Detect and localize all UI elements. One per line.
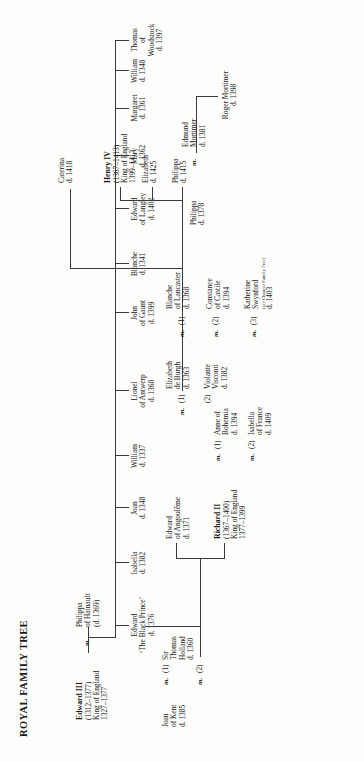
node-reign: 1327–1377	[101, 654, 109, 720]
node-edward-of-angouleme: Edward of Angoulême d. 1371	[166, 477, 191, 539]
node-blanche-1341: Blanche d. 1341	[131, 237, 148, 291]
connector-gaunt-blanche-issue	[182, 201, 183, 313]
connector-blackprince-children	[200, 559, 201, 627]
page-title: ROYAL FAMILY TREE	[18, 620, 29, 737]
node-dates: d. 1409	[265, 385, 273, 435]
node-reign: 1377–1399	[239, 469, 247, 539]
node-surname: Swynford	[252, 243, 260, 309]
node-dates: d. 1398	[230, 49, 238, 141]
node-dates: (d. 1369)	[93, 565, 101, 627]
node-caterina-1418: Caterina d. 1418	[58, 129, 75, 183]
connector-blackprince-children-spine	[176, 558, 224, 559]
node-lionel-of-antwerp: Lionel of Antwerp d. 1368	[131, 361, 156, 421]
connector-stub-joan	[115, 507, 129, 508]
node-joan-of-kent: Joan of Kent d. 1385	[162, 679, 187, 727]
node-philippa-1378: Philippa d. 1378	[190, 173, 207, 225]
node-dates: d. 1394	[223, 251, 231, 309]
node-edward-iii: Edward III (1312–1377) King of England 1…	[76, 654, 110, 720]
node-dates: d. 1382	[221, 335, 229, 389]
node-dates: d. 1337	[139, 429, 147, 483]
marriage-marker-lionel: m.	[178, 408, 186, 415]
node-dates: d. 1348	[139, 483, 147, 533]
marriage-index-2-isabella-france: (2)	[248, 441, 256, 449]
connector-gaunt-issue-spine	[120, 200, 182, 201]
node-dates: d. 1382	[139, 536, 147, 590]
marriage-marker-blanche-lancaster: m.	[178, 330, 186, 337]
connector-stub-philippa-1415	[182, 187, 183, 201]
node-dates: d. 1368	[183, 247, 191, 309]
marriage-index-1-blanche-lancaster: (1)	[178, 317, 186, 325]
connector-root-drop	[88, 637, 116, 638]
marriage-index-2-visconti: (2)	[204, 395, 212, 403]
node-dates: d. 1368	[148, 361, 156, 421]
node-philippa-1415: Philippa d. 1415	[172, 129, 189, 183]
marriage-index-3-katherine: (3)	[250, 317, 258, 325]
connector-stub-margaret	[115, 108, 129, 109]
node-william-1337: William d. 1337	[131, 429, 148, 483]
node-john-of-gaunt: John of Gaunt d. 1399	[131, 285, 156, 341]
connector-stub-edward-langley	[115, 208, 129, 209]
node-thomas-of-woodstock: Thomas of Woodstock d. 1397	[131, 15, 164, 65]
marriage-marker-mortimer: m.	[190, 159, 198, 166]
connector-root-marriage	[88, 627, 89, 653]
connector-stub-edward-bp	[115, 625, 129, 626]
connector-blackprince-drop	[145, 626, 201, 627]
family-tree-canvas: ROYAL FAMILY TREE Edward III (1312–1377)…	[0, 0, 364, 761]
connector-stub-edward-angouleme	[176, 543, 177, 559]
node-dates: d. 1394	[231, 385, 239, 435]
node-elizabeth-de-burgh: Elizabeth de Burgh d. 1363	[166, 335, 191, 389]
node-katherine-swynford: Katherine Swynford (see Chaucer Family T…	[244, 243, 274, 309]
node-anne-of-bohemia: Anne of Bohemia d. 1394	[214, 385, 239, 435]
node-elizabeth-1425: Elizabeth d. 1425	[142, 129, 159, 183]
marriage-marker-katherine: m.	[250, 330, 258, 337]
node-dates: d. 1360	[187, 610, 195, 660]
node-henry-iv: Henry IV (1367–1413) King of England 139…	[104, 111, 138, 183]
node-dates: d. 1378	[198, 173, 206, 225]
connector-caterina-arm	[70, 189, 71, 269]
node-isabella-of-france: Isabella of France d. 1409	[248, 385, 273, 435]
node-dates: d. 1363	[183, 335, 191, 389]
marriage-index-1-de-burgh: (1)	[178, 395, 186, 403]
connector-mortimer-drop	[196, 96, 218, 97]
connector-stub-william1337	[115, 455, 129, 456]
node-dates: d. 1385	[179, 679, 187, 727]
node-roger-mortimer: Roger Mortimer d. 1398	[222, 49, 239, 141]
node-dates: d. 1403	[266, 243, 274, 309]
marriage-marker-root: m.	[83, 639, 91, 646]
connector-stub-henry-iv	[120, 187, 121, 201]
node-philippa-of-hainault: Philippa of Hainault (d. 1369)	[76, 565, 101, 627]
node-constance-of-castile: Constance of Castile d. 1394	[206, 251, 231, 309]
node-sir-thomas-holland: Sir Thomas Holland d. 1360	[162, 610, 195, 660]
connector-joan-blackprince	[200, 627, 201, 657]
marriage-index-2-constance: (2)	[212, 317, 220, 325]
node-violante-visconti: Violante Visconti d. 1382	[204, 335, 229, 389]
connector-caterina-spine	[70, 268, 182, 269]
connector-stub-isabella	[115, 562, 129, 563]
connector-stub-thomas-woodstock	[115, 40, 129, 41]
node-dates: d. 1418	[66, 129, 74, 183]
marriage-marker-constance: m.	[212, 330, 220, 337]
connector-stub-william1348	[115, 70, 129, 71]
node-blanche-of-lancaster: Blanche of Lancaster d. 1368	[166, 247, 191, 309]
node-reign: 1399–1413	[129, 111, 137, 183]
connector-stub-elizabeth-1425	[152, 187, 153, 201]
marriage-index-1-anne: (1)	[214, 441, 222, 449]
node-dates: d. 1397	[156, 15, 164, 65]
connector-stub-blanche	[115, 263, 129, 264]
node-dates: d. 1415	[180, 129, 188, 183]
node-dates: d. 1371	[183, 477, 191, 539]
node-isabella: Isabella d. 1382	[131, 536, 148, 590]
marriage-index-1-holland: (1)	[162, 665, 170, 673]
marriage-marker-anne: m.	[214, 454, 222, 461]
node-richard-ii: Richard II (1367–1400) King of England 1…	[214, 469, 248, 539]
marriage-marker-holland: m.	[162, 678, 170, 685]
node-dates: d. 1381	[199, 95, 207, 147]
node-dates: d. 1376	[148, 594, 156, 656]
node-dates: d. 1425	[150, 129, 158, 183]
node-dates: d. 1399	[148, 285, 156, 341]
connector-stub-richard-ii	[224, 543, 225, 559]
marriage-index-2-black-prince: (2)	[196, 665, 204, 673]
connector-stub-lionel	[115, 390, 129, 391]
node-joan: Joan d. 1348	[131, 483, 148, 533]
connector-stub-john-gaunt	[115, 312, 129, 313]
